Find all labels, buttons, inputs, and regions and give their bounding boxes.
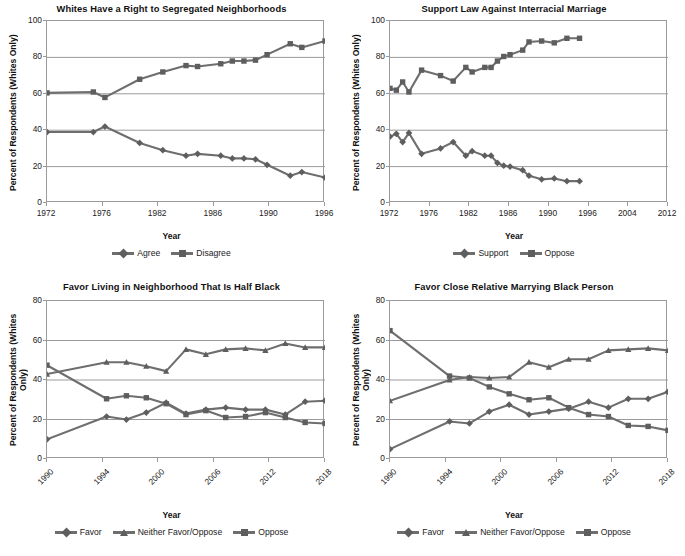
legend-item-oppose[interactable]: Oppose [520,249,575,258]
x-tick-mark [213,458,214,462]
data-point [298,169,305,176]
data-point [488,65,493,70]
x-tick-mark [324,202,325,206]
plot-area [389,20,667,202]
x-axis-label: Year [0,510,343,520]
legend-label: Favor [80,528,102,537]
data-point [520,47,525,52]
data-point [576,178,583,185]
data-point [526,411,533,418]
data-point [564,178,571,185]
x-tick-mark [102,458,103,462]
chart-canvas [390,301,668,459]
x-tick-label: 2018 [313,466,333,486]
data-point [242,406,249,413]
x-tick-mark [157,202,158,206]
data-point [263,410,268,415]
y-tick-mark [43,419,46,420]
square-marker-icon [233,528,255,537]
data-point [625,395,632,402]
data-point [160,69,165,74]
x-tick-label: 1976 [92,208,111,218]
legend-item-neither-favor-oppose[interactable]: Neither Favor/Oppose [113,528,223,537]
legend-item-agree[interactable]: Agree [112,249,160,258]
y-axis-label: Percent of Respondents (Whites Only) [8,30,18,195]
data-point [566,405,571,410]
panel-segregated-neighborhoods: Whites Have a Right to Segregated Neighb… [0,0,343,278]
data-point [183,412,188,417]
x-tick-label: 1982 [459,208,478,218]
y-tick-label: 60 [20,88,42,98]
data-point [124,393,129,398]
legend-item-support[interactable]: Support [453,249,508,258]
y-tick-label: 0 [363,197,385,207]
y-tick-label: 60 [363,88,385,98]
data-point [104,396,109,401]
y-tick-label: 80 [363,295,385,305]
data-point [299,45,304,50]
y-tick-mark [43,166,46,167]
legend-label: Favor [422,528,444,537]
series-line-disagree [47,41,325,97]
x-tick-label: 1986 [499,208,518,218]
x-tick-label: 2006 [545,466,565,486]
legend-item-favor[interactable]: Favor [55,528,102,537]
x-tick-mark [556,458,557,462]
y-tick-label: 80 [363,51,385,61]
legend-item-disagree[interactable]: Disagree [171,249,230,258]
data-point [482,65,487,70]
data-point [230,58,235,63]
y-tick-label: 40 [363,374,385,384]
figure-grid: Whites Have a Right to Segregated Neighb… [0,0,685,556]
chart-canvas [47,301,325,459]
square-marker-icon [520,249,542,258]
data-point [665,428,668,433]
panel-close-relative-marrying: Favor Close Relative Marrying Black Pers… [343,278,685,556]
legend-item-oppose[interactable]: Oppose [233,528,288,537]
triangle-marker-icon [113,528,135,537]
data-point [229,155,236,162]
data-point [137,77,142,82]
data-point [538,176,545,183]
data-point [526,39,531,44]
x-tick-mark [468,202,469,206]
y-tick-mark [43,20,46,21]
data-point [241,155,248,162]
data-point [288,41,293,46]
data-point [487,384,492,389]
x-axis-label: Year [0,231,343,241]
y-tick-label: 60 [20,335,42,345]
legend-item-oppose[interactable]: Oppose [576,528,631,537]
y-tick-mark [43,379,46,380]
data-point [469,69,474,74]
data-point [195,64,200,69]
x-tick-label: 2004 [618,208,637,218]
diamond-marker-icon [397,528,419,537]
x-tick-mark [611,458,612,462]
y-tick-mark [386,166,389,167]
x-tick-label: 1994 [91,466,111,486]
data-point [506,391,511,396]
data-point [545,408,552,415]
data-point [91,89,96,94]
y-tick-mark [386,56,389,57]
data-point [400,79,405,84]
data-point [645,395,652,402]
x-tick-label: 1972 [380,208,399,218]
x-tick-mark [429,202,430,206]
legend-item-neither-favor-oppose[interactable]: Neither Favor/Oppose [455,528,565,537]
data-point [217,152,224,159]
data-point [390,328,393,333]
legend-item-favor[interactable]: Favor [397,528,444,537]
data-point [665,388,668,395]
y-tick-label: 40 [20,374,42,384]
x-tick-mark [268,458,269,462]
chart-title: Support Law Against Interracial Marriage [343,4,685,14]
data-point [90,129,97,136]
x-axis-label: Year [343,510,685,520]
x-tick-mark [268,202,269,206]
y-tick-label: 0 [20,197,42,207]
x-tick-label: 1990 [35,466,55,486]
x-tick-mark [213,202,214,206]
x-tick-mark [667,202,668,206]
